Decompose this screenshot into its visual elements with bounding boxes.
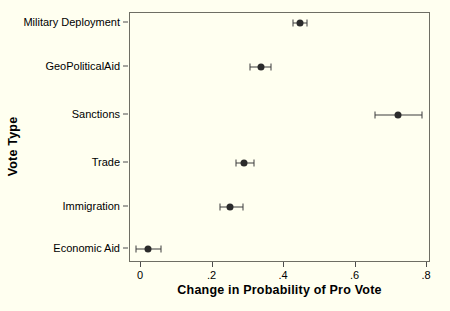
y-tick-mark — [123, 22, 128, 23]
confidence-interval-cap-low — [235, 160, 236, 167]
x-tick-mark — [283, 262, 284, 267]
plot-area — [129, 12, 430, 262]
confidence-interval-cap-high — [271, 64, 272, 71]
data-point-economic-aid — [145, 246, 152, 253]
data-point-geopoliticalaid — [257, 64, 264, 71]
confidence-interval-cap-high — [421, 112, 422, 119]
confidence-interval-cap-low — [250, 64, 251, 71]
confidence-interval-cap-high — [160, 246, 161, 253]
y-tick-label-geopoliticalaid: GeoPoliticalAid — [0, 60, 120, 72]
confidence-interval-cap-high — [307, 20, 308, 27]
y-tick-label-sanctions: Sanctions — [0, 108, 120, 120]
confidence-interval-cap-low — [292, 20, 293, 27]
x-tick-mark — [212, 262, 213, 267]
data-point-military-deployment — [297, 20, 304, 27]
x-tick-mark — [426, 262, 427, 267]
coefficient-plot: Vote Type Military DeploymentGeoPolitica… — [0, 0, 450, 311]
confidence-interval-cap-low — [220, 204, 221, 211]
x-tick-label: .4 — [263, 269, 303, 281]
y-tick-mark — [123, 66, 128, 67]
x-tick-label: .2 — [192, 269, 232, 281]
y-tick-mark — [123, 162, 128, 163]
x-tick-label: .8 — [406, 269, 446, 281]
y-tick-label-economic-aid: Economic Aid — [0, 242, 120, 254]
confidence-interval-cap-high — [242, 204, 243, 211]
x-axis-title: Change in Probability of Pro Vote — [129, 283, 430, 297]
confidence-interval-cap-low — [135, 246, 136, 253]
x-tick-label: .6 — [335, 269, 375, 281]
x-tick-label: 0 — [120, 269, 160, 281]
confidence-interval-cap-high — [253, 160, 254, 167]
confidence-interval-cap-low — [375, 112, 376, 119]
data-point-trade — [240, 160, 247, 167]
x-tick-mark — [140, 262, 141, 267]
y-tick-label-military-deployment: Military Deployment — [0, 16, 120, 28]
y-axis-title: Vote Type — [2, 0, 24, 270]
data-point-sanctions — [395, 112, 402, 119]
y-tick-mark — [123, 206, 128, 207]
data-point-immigration — [227, 204, 234, 211]
x-tick-mark — [355, 262, 356, 267]
y-tick-label-trade: Trade — [0, 156, 120, 168]
y-tick-label-immigration: Immigration — [0, 200, 120, 212]
y-tick-mark — [123, 248, 128, 249]
y-tick-mark — [123, 114, 128, 115]
